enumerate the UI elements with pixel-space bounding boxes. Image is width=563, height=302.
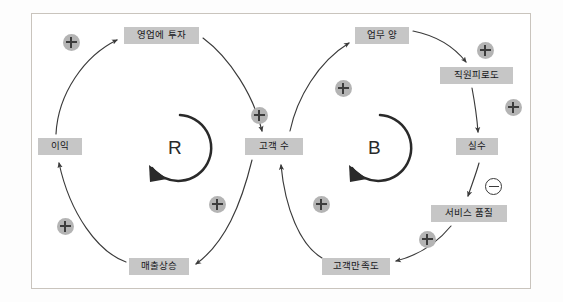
link-mistakes-to-service-quality (468, 163, 479, 196)
plus-icon (316, 199, 327, 210)
plus-icon (66, 37, 77, 48)
plus-icon (254, 110, 265, 121)
minus-icon (488, 181, 499, 192)
balancing-loop-label: B (368, 138, 381, 157)
polarity-plus-satisfaction-to-customers (313, 196, 330, 213)
node-workload[interactable]: 업무 양 (355, 27, 409, 44)
plus-icon (212, 199, 223, 210)
polarity-plus-invest-to-customers (251, 107, 268, 124)
node-staff-fatigue[interactable]: 직원피로도 (440, 67, 513, 84)
node-service-quality[interactable]: 서비스 품질 (431, 205, 507, 222)
node-profit[interactable]: 이익 (38, 138, 82, 155)
node-mistakes[interactable]: 실수 (456, 138, 498, 155)
diagram-canvas: 영업에 투자 이익 매출상승 고객 수 업무 양 직원피로도 실수 서비스 품질… (0, 0, 563, 302)
balancing-loop-arc (352, 115, 411, 181)
plus-icon (60, 221, 71, 232)
node-invest-in-sales[interactable]: 영업에 투자 (124, 27, 199, 44)
link-customers-to-sales-increase (196, 160, 252, 264)
polarity-plus-fatigue-to-mistakes (505, 99, 522, 116)
node-customer-satisfaction[interactable]: 고객만족도 (322, 258, 390, 275)
link-fatigue-to-mistakes (472, 88, 478, 132)
link-workload-to-fatigue (413, 31, 466, 62)
link-profit-to-invest (56, 40, 117, 134)
polarity-minus-mistakes-to-service-quality (485, 178, 502, 195)
plus-icon (422, 234, 433, 245)
node-customer-count[interactable]: 고객 수 (245, 138, 303, 155)
plus-icon (508, 102, 519, 113)
node-sales-increase[interactable]: 매출상승 (129, 258, 189, 275)
polarity-plus-workload-to-fatigue (477, 42, 494, 59)
link-sales-increase-to-profit (59, 163, 126, 262)
polarity-plus-profit-to-invest (63, 34, 80, 51)
polarity-plus-sales-increase-to-profit (57, 218, 74, 235)
reinforcing-loop-label: R (168, 138, 182, 157)
balancing-loop-arrowhead (349, 165, 367, 182)
polarity-plus-customers-to-workload (335, 80, 352, 97)
polarity-plus-customers-to-sales-increase (209, 196, 226, 213)
polarity-plus-quality-to-satisfaction (419, 231, 436, 248)
plus-icon (480, 45, 491, 56)
reinforcing-loop-arrowhead (149, 165, 167, 182)
plus-icon (338, 83, 349, 94)
